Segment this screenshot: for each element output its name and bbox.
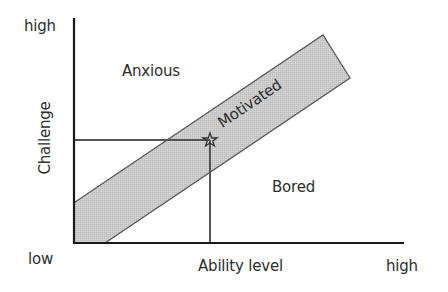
y-axis-title: Challenge [38, 101, 53, 174]
flow-diagram: high low high Ability level Challenge An… [0, 0, 448, 292]
region-label-anxious: Anxious [122, 64, 180, 79]
y-axis-high-label: high [24, 19, 56, 34]
x-axis-high-label: high [386, 259, 418, 274]
axis-low-label: low [28, 252, 53, 267]
motivated-band [50, 35, 350, 272]
diagram-graphics [0, 0, 448, 292]
region-label-bored: Bored [272, 180, 315, 195]
x-axis-title: Ability level [198, 259, 283, 274]
